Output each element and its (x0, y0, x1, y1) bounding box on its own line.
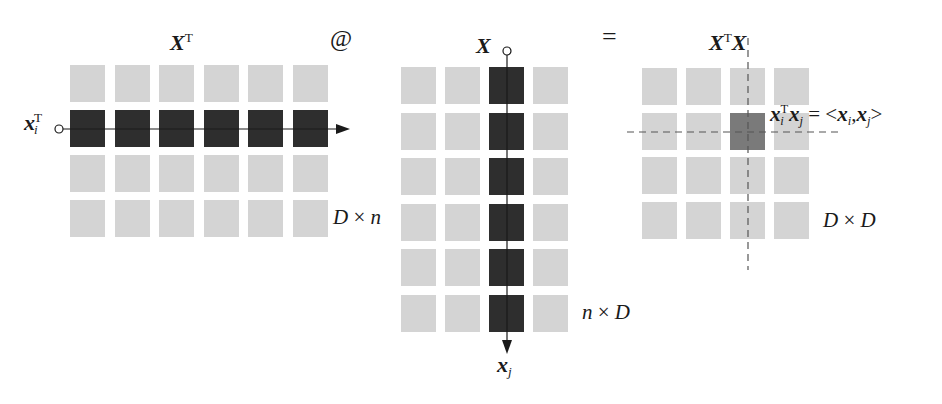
crosshair-dashed-lines (627, 38, 842, 270)
arrows-overlay (0, 0, 942, 404)
row-arrow-icon (55, 124, 350, 134)
col-arrow-icon (502, 47, 512, 354)
